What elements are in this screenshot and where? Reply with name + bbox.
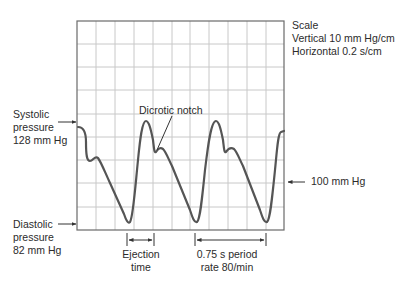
systolic-line2: pressure [13, 121, 67, 134]
ejection-time-bracket-icon [127, 233, 154, 246]
ejection-line1: Ejection [118, 248, 164, 261]
dicrotic-notch-label: Dicrotic notch [139, 104, 203, 117]
chart-border [77, 21, 284, 230]
period-line2: rate 80/min [192, 261, 262, 274]
dicrotic-notch-pointer [157, 116, 172, 150]
diastolic-line3: 82 mm Hg [13, 244, 61, 257]
ejection-time-label: Ejection time [118, 248, 164, 274]
systolic-line1: Systolic [13, 108, 67, 121]
period-line1: 0.75 s period [192, 248, 262, 261]
systolic-line3: 128 mm Hg [13, 134, 67, 147]
diastolic-line1: Diastolic [13, 218, 61, 231]
diastolic-line2: pressure [13, 231, 61, 244]
systolic-label: Systolic pressure 128 mm Hg [13, 108, 67, 147]
period-bracket-icon [195, 233, 266, 246]
grid [77, 21, 284, 230]
mean-pressure-label: 100 mm Hg [311, 175, 365, 188]
scale-horizontal: Horizontal 0.2 s/cm [292, 45, 382, 58]
diastolic-label: Diastolic pressure 82 mm Hg [13, 218, 61, 257]
scale-vertical: Vertical 10 mm Hg/cm [292, 32, 395, 45]
ejection-line2: time [118, 261, 164, 274]
period-label: 0.75 s period rate 80/min [192, 248, 262, 274]
scale-title: Scale [292, 19, 318, 32]
